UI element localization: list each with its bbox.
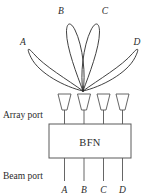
beam-port-label-d: D — [118, 185, 126, 195]
array-port-label: Array port — [3, 110, 43, 120]
beam-port-lines — [65, 158, 123, 181]
lobe-label-a: A — [19, 37, 26, 47]
bfn-label: BFN — [79, 137, 100, 148]
lobe-a-outline — [28, 49, 83, 91]
array-element-3 — [97, 94, 110, 124]
horn-icon — [116, 94, 129, 110]
diagram-canvas: A B C D Array port — [0, 0, 155, 196]
beam-port-label-c: C — [100, 185, 107, 195]
radiation-lobes — [28, 24, 138, 91]
array-element-4 — [116, 94, 129, 124]
horn-icon — [58, 94, 71, 110]
horn-icon — [78, 94, 91, 110]
lobe-label-b: B — [58, 6, 64, 16]
array-element-1 — [58, 94, 71, 124]
lobe-label-d: D — [133, 37, 141, 47]
bfn-antenna-diagram: A B C D Array port — [0, 0, 155, 196]
beam-port-label-b: B — [81, 185, 87, 195]
lobe-d-outline — [83, 49, 138, 91]
lobe-label-c: C — [102, 6, 109, 16]
array-elements — [58, 94, 129, 124]
beam-port-label-a: A — [61, 185, 68, 195]
beam-port-label: Beam port — [3, 171, 43, 181]
array-element-2 — [78, 94, 91, 124]
horn-icon — [97, 94, 110, 110]
